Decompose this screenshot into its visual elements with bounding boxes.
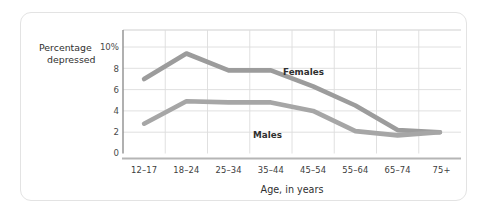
x-tick-label-7: 75+ — [432, 165, 450, 175]
x-tick-label-2: 25–34 — [215, 165, 241, 175]
x-tick-label-4: 45–54 — [300, 165, 326, 175]
series-annotation-males: Males — [253, 130, 282, 140]
y-tick-label-8: 8 — [114, 64, 119, 74]
x-axis-title: Age, in years — [261, 184, 324, 195]
x-tick-label-6: 65–74 — [384, 165, 410, 175]
line-chart: Percentage depressed 10% 8 6 4 2 0 — [21, 13, 468, 202]
series-annotation-females: Females — [283, 67, 324, 77]
screenshot-root: Percentage depressed 10% 8 6 4 2 0 — [0, 0, 484, 214]
y-axis-label-line1: Percentage — [39, 42, 92, 53]
x-tick-label-5: 55–64 — [342, 165, 368, 175]
figure-frame: Percentage depressed 10% 8 6 4 2 0 — [20, 12, 467, 201]
y-tick-label-2: 2 — [114, 127, 119, 137]
y-tick-label-4: 4 — [114, 106, 119, 116]
y-tick-label-10: 10% — [100, 42, 119, 52]
y-tick-label-0: 0 — [114, 148, 119, 158]
y-tick-label-6: 6 — [114, 85, 119, 95]
x-tick-label-3: 35–44 — [258, 165, 284, 175]
x-tick-label-0: 12–17 — [131, 165, 157, 175]
x-tick-label-1: 18–24 — [173, 165, 199, 175]
y-axis-label-line2: depressed — [47, 54, 96, 65]
